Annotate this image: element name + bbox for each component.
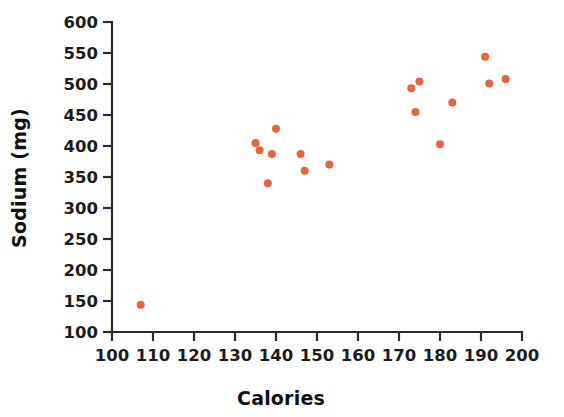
y-axis: 100150200250300350400450500550600 [64,13,112,342]
y-axis-title: Sodium (mg) [8,108,30,248]
y-tick-label: 500 [64,75,98,94]
x-tick-label: 180 [423,346,457,365]
y-tick-label: 600 [64,13,98,32]
x-tick-label: 130 [218,346,252,365]
x-tick-label: 120 [177,346,211,365]
data-point [485,79,493,87]
x-axis-title: Calories [237,387,325,409]
data-point [256,146,264,154]
plot-area: 100150200250300350400450500550600 100110… [0,0,564,417]
data-point [416,78,424,86]
data-point [407,84,415,92]
y-tick-label: 300 [64,199,98,218]
data-point [252,139,260,147]
x-axis: 100110120130140150160170180190200 [95,332,539,365]
y-tick-label: 150 [64,292,98,311]
data-point [481,53,489,61]
data-point [272,125,280,133]
x-tick-label: 140 [259,346,293,365]
y-tick-label: 200 [64,261,98,280]
data-point [264,179,272,187]
x-tick-label: 190 [464,346,498,365]
data-point [411,108,419,116]
scatter-chart: 100150200250300350400450500550600 100110… [0,0,564,417]
data-point [502,75,510,83]
y-tick-label: 350 [64,168,98,187]
data-point [436,140,444,148]
x-tick-label: 150 [300,346,334,365]
y-tick-label: 550 [64,44,98,63]
data-points-layer [137,53,510,309]
y-tick-label: 250 [64,230,98,249]
x-tick-label: 170 [382,346,416,365]
x-tick-label: 200 [505,346,539,365]
x-tick-label: 100 [95,346,129,365]
data-point [297,150,305,158]
y-tick-label: 100 [64,323,98,342]
y-tick-label: 450 [64,106,98,125]
y-tick-label: 400 [64,137,98,156]
data-point [448,99,456,107]
data-point [325,161,333,169]
x-tick-label: 160 [341,346,375,365]
data-point [137,301,145,309]
x-tick-label: 110 [136,346,170,365]
data-point [301,167,309,175]
data-point [268,150,276,158]
